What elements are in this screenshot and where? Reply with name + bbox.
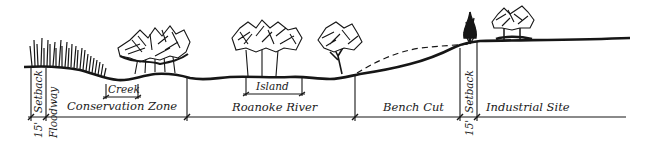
setback-left-dimension: 15' <box>32 122 44 138</box>
roanoke-river-label: Roanoke River <box>231 100 319 114</box>
riverbank-tree-icon <box>318 22 362 74</box>
setback-right-label: Setback <box>463 70 475 113</box>
shrub-icon <box>464 12 477 44</box>
setback-left-label: Setback <box>32 70 44 113</box>
cross-section-diagram: Creek Conservation Zone Island Roanoke R… <box>0 0 646 156</box>
bench-cut-label: Bench Cut <box>382 100 444 114</box>
island-trees-icon <box>232 20 302 76</box>
floodway-label: Floodway <box>47 86 59 139</box>
setback-right-dimension: 15' <box>463 120 475 136</box>
creek-label: Creek <box>108 83 140 95</box>
industrial-trees-icon <box>492 6 534 40</box>
tree-cluster-icon <box>118 26 190 74</box>
island-label: Island <box>255 80 289 92</box>
conservation-zone-label: Conservation Zone <box>67 99 177 113</box>
industrial-site-label: Industrial Site <box>485 100 570 114</box>
